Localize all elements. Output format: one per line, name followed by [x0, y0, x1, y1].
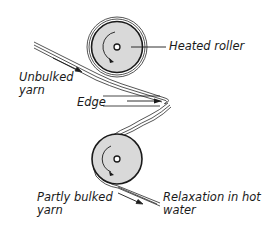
relaxation-label-line2: water [163, 204, 261, 217]
unbulked-yarn-label-line2: yarn [19, 84, 74, 97]
edge [103, 96, 162, 106]
heated-roller-label: Heated roller [169, 40, 244, 53]
unbulked-yarn-label: Unbulked yarn [19, 71, 74, 97]
relaxation-label: Relaxation in hot water [163, 191, 261, 217]
lower-roller [92, 134, 142, 184]
heated-roller [87, 17, 166, 77]
partly-bulked-yarn-label: Partly bulked yarn [37, 191, 113, 217]
edge-label: Edge [77, 96, 106, 109]
yarn-bulking-diagram: Heated roller Unbulked yarn Edge Partly … [0, 0, 274, 245]
partly-bulked-yarn-label-line2: yarn [37, 204, 113, 217]
outgoing-yarn [118, 187, 157, 204]
